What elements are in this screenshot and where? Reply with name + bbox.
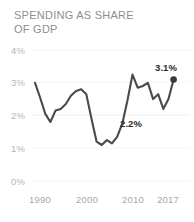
ytick-4pct: 4% bbox=[11, 45, 33, 56]
end-value-label: 3.1% bbox=[155, 62, 177, 73]
ytick-3pct: 3% bbox=[11, 77, 33, 88]
ytick-2pct: 2% bbox=[11, 110, 33, 121]
xtick-2010: 2010 bbox=[113, 194, 153, 205]
xtick-1990: 1990 bbox=[20, 194, 60, 205]
xtick-2000: 2000 bbox=[67, 194, 107, 205]
ytick-0pct: 0% bbox=[11, 176, 33, 187]
end-point-marker bbox=[170, 76, 177, 83]
ytick-1pct: 1% bbox=[11, 143, 33, 154]
spending-line bbox=[35, 75, 174, 145]
spending-share-of-gdp-chart: SPENDING AS SHARE OF GDP 4% 3% 2% 1% 0% … bbox=[0, 0, 194, 222]
xtick-2017: 2017 bbox=[148, 194, 188, 205]
mid-value-label: 2.2% bbox=[120, 118, 142, 129]
